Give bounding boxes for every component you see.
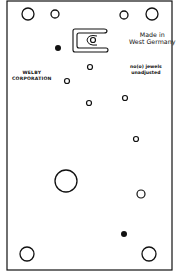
made-in-line1: Made in xyxy=(129,31,175,38)
hole-small-2 xyxy=(65,79,70,84)
hole-small-1 xyxy=(88,65,93,70)
hole-large-center xyxy=(55,170,77,192)
filled-dot-upper xyxy=(55,45,61,51)
made-in-label: Made in West Germany xyxy=(129,31,175,45)
maker-line2: CORPORATION xyxy=(12,76,52,82)
hole-top-right-large xyxy=(146,8,158,20)
hole-small-6 xyxy=(137,190,145,198)
jewels-label: no(o) jewels unadjusted xyxy=(130,64,162,75)
hole-bottom-right xyxy=(142,247,156,261)
hole-top-left-large xyxy=(22,8,34,20)
hole-small-4 xyxy=(123,96,128,101)
filled-dot-lower xyxy=(121,231,127,237)
hole-top-right-small xyxy=(120,11,128,19)
hole-bottom-left xyxy=(20,247,34,261)
jewels-line2: unadjusted xyxy=(130,70,162,76)
maker-label: WELBY CORPORATION xyxy=(12,70,52,81)
hole-small-3 xyxy=(87,101,92,106)
jewels-line1: no(o) jewels xyxy=(130,64,162,70)
hole-small-5 xyxy=(134,137,139,142)
made-in-line2: West Germany xyxy=(129,38,175,45)
hole-top-left-small xyxy=(51,10,59,18)
regulator-hole xyxy=(91,38,96,43)
